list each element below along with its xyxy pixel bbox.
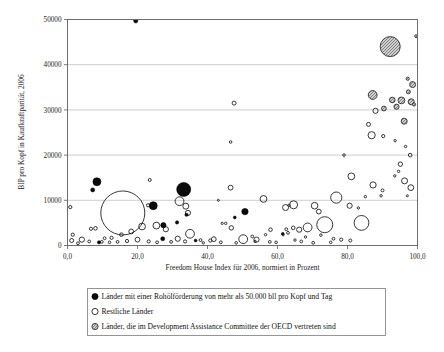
- bubble-other-country: [251, 235, 254, 238]
- bubble-other-country: [304, 236, 306, 238]
- y-tick-label: 20000: [44, 152, 62, 160]
- y-tick-label: 10000: [44, 197, 62, 205]
- bubble-other-country: [101, 191, 145, 235]
- x-tick-label: 20,0: [131, 253, 144, 261]
- bubble-other-country: [209, 239, 212, 242]
- bubble-other-country: [364, 195, 366, 197]
- bubble-other-country: [320, 234, 323, 237]
- x-tick-label: 100,0: [409, 253, 426, 261]
- bubble-other-country: [69, 205, 72, 208]
- bubble-oil-country: [281, 232, 284, 235]
- filled-black-circle-icon: [92, 293, 98, 299]
- y-axis-tick-labels: 01000020000300004000050000: [44, 16, 62, 250]
- bubble-other-country: [229, 141, 232, 144]
- bubble-other-country: [202, 242, 204, 244]
- y-tick-label: 50000: [44, 16, 62, 24]
- bubble-other-country: [79, 237, 84, 242]
- bubble-other-country: [300, 240, 303, 243]
- bubble-other-country: [408, 185, 414, 191]
- bubble-dac-country: [368, 91, 377, 100]
- bubble-other-country: [408, 153, 412, 157]
- bubble-oil-country: [177, 182, 191, 196]
- bubble-other-country: [291, 226, 295, 230]
- y-tick-label: 40000: [44, 61, 62, 69]
- x-tick-label: 40,0: [201, 253, 214, 261]
- bubble-dac-country: [398, 97, 405, 104]
- legend-label-oil: Länder mit einer Rohölförderung von mehr…: [102, 292, 333, 301]
- bubble-other-country: [394, 175, 396, 177]
- bubble-dac-country: [390, 97, 396, 103]
- bubble-dac-country: [394, 104, 399, 109]
- bubble-other-country: [349, 239, 352, 242]
- x-tick-label: 60,0: [271, 253, 284, 261]
- bubble-chart-figure: 0,020,040,060,080,0100,0 010000200003000…: [0, 0, 444, 352]
- bubble-other-country: [404, 145, 406, 147]
- bubble-oil-country: [93, 178, 101, 186]
- bubble-other-country: [380, 195, 382, 197]
- bubble-other-country: [264, 233, 266, 235]
- bubble-other-country: [217, 199, 219, 201]
- bubble-other-country: [239, 235, 248, 244]
- bubble-other-country: [343, 154, 346, 157]
- bubble-other-country: [120, 233, 124, 237]
- bubble-other-country: [229, 226, 233, 230]
- bubble-other-country: [317, 217, 333, 233]
- bubble-other-country: [348, 173, 355, 180]
- bubble-other-country: [329, 241, 332, 244]
- bubble-other-country: [147, 240, 150, 243]
- bubble-dac-country: [380, 37, 400, 57]
- bubble-other-country: [184, 240, 187, 243]
- bubble-other-country: [397, 170, 399, 172]
- bubble-other-country: [340, 238, 343, 241]
- x-axis-tick-labels: 0,020,040,060,080,0100,0: [63, 253, 426, 261]
- bubble-other-country: [331, 192, 342, 203]
- bubble-oil-country: [175, 221, 178, 224]
- bubble-other-country: [254, 240, 256, 242]
- legend-label-other: Restliche Länder: [102, 307, 154, 316]
- bubble-other-country: [108, 241, 111, 244]
- hatched-grey-circle-icon: [92, 323, 98, 329]
- gridlines: [68, 20, 418, 201]
- x-axis-title: Freedom House Index für 2006, normiert i…: [166, 263, 321, 272]
- bubble-other-country: [368, 132, 375, 139]
- bubble-dac-country: [412, 103, 415, 106]
- bubble-other-country: [135, 237, 140, 242]
- x-tick-label: 80,0: [341, 253, 354, 261]
- legend-label-dac: Länder, die im Development Assistance Co…: [102, 322, 336, 331]
- bubble-other-country: [103, 237, 106, 240]
- bubble-other-country: [170, 240, 173, 243]
- y-axis-title: BIP pro Kopf in Kaufkraftparität, 2006: [17, 74, 26, 190]
- bubble-other-country: [186, 229, 195, 238]
- bubble-other-country: [235, 241, 238, 244]
- bubble-oil-country: [161, 223, 166, 228]
- bubble-other-country: [260, 196, 267, 203]
- bubble-other-country: [303, 223, 312, 232]
- bubble-other-country: [269, 228, 273, 232]
- bubble-other-country: [287, 231, 290, 234]
- bubble-other-country: [332, 237, 335, 240]
- bubble-other-country: [398, 162, 402, 166]
- bubble-other-country: [297, 227, 302, 232]
- bubble-oil-country: [161, 237, 165, 241]
- bubble-other-country: [139, 223, 146, 230]
- bubble-other-country: [406, 195, 408, 197]
- bubble-other-country: [367, 122, 371, 126]
- bubble-oil-country: [194, 239, 197, 242]
- bubble-other-country: [311, 202, 318, 209]
- bubble-other-country: [89, 227, 92, 230]
- bubble-other-country: [77, 242, 80, 245]
- bubble-other-country: [148, 178, 151, 181]
- bubble-oil-country: [233, 216, 236, 219]
- bubble-other-country: [357, 207, 359, 209]
- data-points-group: [69, 19, 418, 245]
- bubble-other-country: [219, 241, 222, 244]
- bubble-oil-country: [185, 213, 188, 216]
- bubble-dac-country: [406, 77, 409, 80]
- bubble-other-country: [88, 240, 91, 243]
- legend-item-oil: Länder mit einer Rohölförderung von mehr…: [92, 292, 332, 301]
- bubble-other-country: [268, 240, 271, 243]
- y-tick-label: 30000: [44, 107, 62, 115]
- bubble-other-country: [156, 241, 159, 244]
- legend-item-dac: Länder, die im Development Assistance Co…: [92, 322, 336, 331]
- bubble-other-country: [221, 222, 223, 224]
